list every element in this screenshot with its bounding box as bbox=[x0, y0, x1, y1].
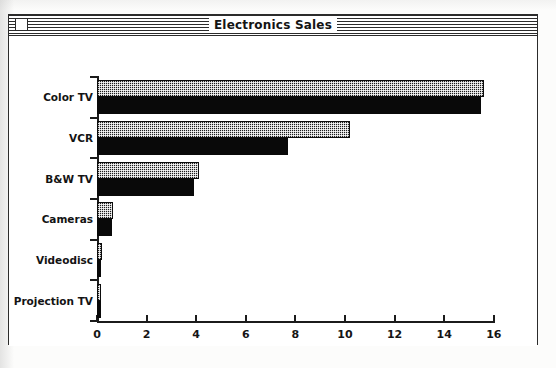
x-axis-tick-label: 4 bbox=[192, 328, 200, 341]
bar-series-2 bbox=[97, 301, 101, 318]
y-axis-category-label: VCR bbox=[0, 132, 93, 144]
chart-canvas: 0246810121416Color TVVCRB&W TVCamerasVid… bbox=[9, 36, 537, 346]
y-axis-category-label: B&W TV bbox=[0, 173, 93, 185]
x-axis-tick bbox=[344, 315, 346, 322]
bar-series-1 bbox=[97, 162, 199, 179]
y-axis-tick bbox=[90, 320, 99, 322]
window-title: Electronics Sales bbox=[209, 18, 337, 32]
y-axis-tick bbox=[90, 279, 99, 281]
x-axis-tick bbox=[394, 315, 396, 322]
y-axis-category-label: Color TV bbox=[0, 91, 93, 103]
plot-area: 0246810121416Color TVVCRB&W TVCamerasVid… bbox=[9, 36, 537, 346]
x-axis-tick-label: 14 bbox=[437, 328, 452, 341]
x-axis-tick-label: 6 bbox=[242, 328, 250, 341]
chart-window: Electronics Sales 0246810121416Color TVV… bbox=[8, 14, 538, 345]
y-axis-category-label: Videodisc bbox=[0, 254, 93, 266]
bar-series-1 bbox=[97, 121, 350, 138]
y-axis-category-label: Projection TV bbox=[0, 295, 93, 307]
x-axis-tick bbox=[294, 315, 296, 322]
bar-series-2 bbox=[97, 138, 288, 155]
x-axis-tick-label: 0 bbox=[93, 328, 101, 341]
x-axis-tick bbox=[493, 315, 495, 322]
y-axis-tick bbox=[90, 76, 99, 78]
bar-series-1 bbox=[97, 80, 484, 97]
bar-series-1 bbox=[97, 284, 101, 301]
x-axis-tick-label: 8 bbox=[292, 328, 300, 341]
x-axis-tick bbox=[146, 315, 148, 322]
x-axis-tick bbox=[245, 315, 247, 322]
bar-series-2 bbox=[97, 219, 112, 236]
bar-series-2 bbox=[97, 179, 194, 196]
bar-series-1 bbox=[97, 202, 113, 219]
bar-series-1 bbox=[97, 243, 102, 260]
bar-series-2 bbox=[97, 260, 101, 277]
window-title-bar[interactable]: Electronics Sales bbox=[9, 15, 537, 36]
x-axis-tick bbox=[195, 315, 197, 322]
x-axis-tick-label: 2 bbox=[143, 328, 151, 341]
x-axis-tick bbox=[443, 315, 445, 322]
y-axis-tick bbox=[90, 117, 99, 119]
x-axis-tick-label: 16 bbox=[486, 328, 501, 341]
y-axis-tick bbox=[90, 239, 99, 241]
y-axis-tick bbox=[90, 157, 99, 159]
x-axis-tick-label: 10 bbox=[337, 328, 352, 341]
x-axis-tick-label: 12 bbox=[387, 328, 402, 341]
y-axis-category-label: Cameras bbox=[0, 213, 93, 225]
y-axis-tick bbox=[90, 198, 99, 200]
close-box-icon[interactable] bbox=[15, 18, 28, 31]
bar-series-2 bbox=[97, 97, 481, 114]
